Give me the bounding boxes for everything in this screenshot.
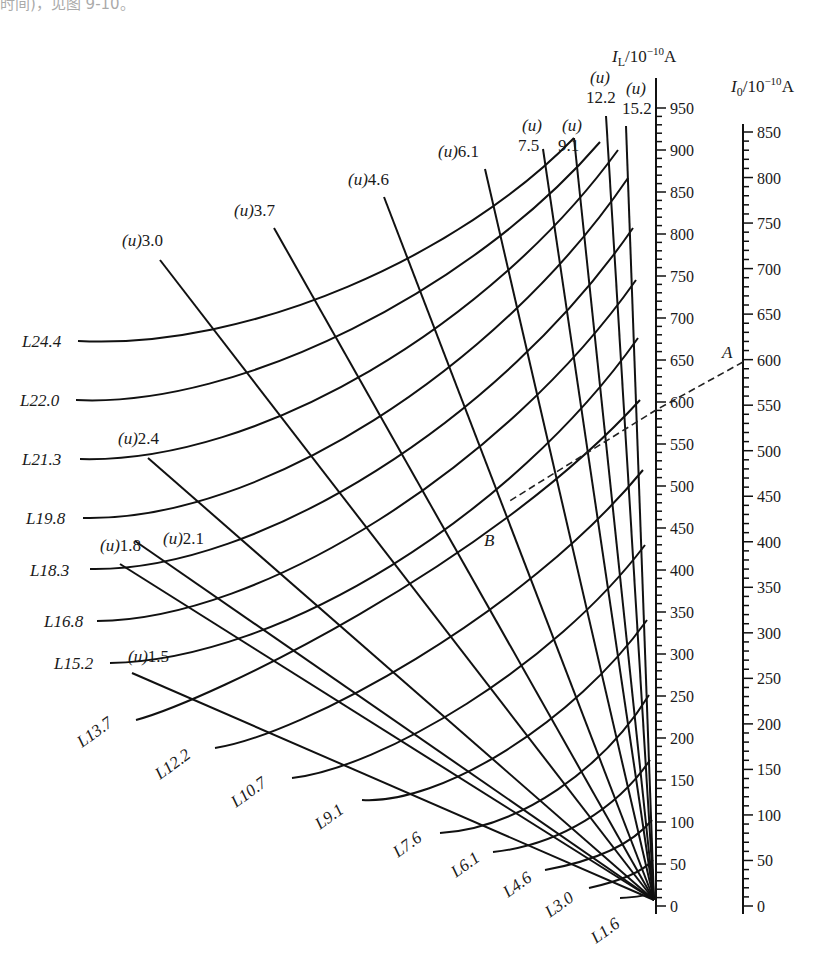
l-curve-label: L12.2: [150, 745, 194, 784]
tick-label: 150: [670, 772, 694, 789]
l-curve-label: L19.8: [25, 509, 66, 528]
tick-label: 900: [670, 142, 694, 159]
u-line-label: (u)7.5: [518, 116, 542, 155]
tick-label: 550: [670, 436, 694, 453]
u-line: [148, 458, 654, 900]
tick-label: 300: [757, 625, 781, 642]
l-curve-label: L21.3: [21, 450, 61, 469]
l-curve-label: L13.7: [72, 712, 117, 752]
tick-label: 350: [757, 579, 781, 596]
u-line-label: (u)1.5: [128, 647, 169, 666]
l-curve: [110, 338, 638, 663]
u-line: [132, 673, 654, 900]
tick-label: 600: [757, 352, 781, 369]
u-line-label: (u)3.0: [122, 231, 163, 250]
u-line: [274, 228, 654, 900]
l-curve: [83, 178, 628, 518]
point-a-label: A: [721, 343, 733, 362]
tick-label: 850: [670, 184, 694, 201]
l-curve-label: L24.4: [21, 332, 62, 351]
tick-label: 700: [670, 310, 694, 327]
il-axis: 0501001502002503003504004505005506006507…: [611, 45, 694, 915]
nomogram: (u)1.5(u)1.8(u)2.1(u)2.4(u)3.0(u)3.7(u)4…: [0, 0, 829, 964]
tick-label: 850: [757, 124, 781, 141]
tick-label: 800: [757, 170, 781, 187]
l-curve-label: L9.1: [310, 800, 347, 834]
tick-label: 550: [757, 397, 781, 414]
tick-label: 50: [670, 856, 686, 873]
u-line-label: (u)2.1: [163, 529, 204, 548]
tick-label: 300: [670, 646, 694, 663]
point-b-label: B: [484, 531, 495, 550]
u-line-label: (u)2.4: [118, 429, 160, 448]
u-line: [384, 197, 654, 900]
l-curve-label: L1.6: [586, 914, 623, 948]
l-curve: [440, 695, 649, 833]
tick-label: 200: [670, 730, 694, 747]
i0-axis: 0501001502002503003504004505005506006507…: [730, 75, 795, 915]
tick-label: 750: [757, 215, 781, 232]
l-curve-label: L6.1: [446, 848, 483, 882]
tick-label: 500: [670, 478, 694, 495]
l-curve-label: L22.0: [19, 391, 60, 410]
axis-title: I0/10−10A: [730, 75, 795, 99]
l-curve-label: L3.0: [540, 888, 577, 922]
u-line-label: (u)3.7: [234, 201, 276, 220]
l-curve-label: L16.8: [43, 612, 84, 631]
tick-label: 250: [670, 688, 694, 705]
u-line-label: (u)15.2: [622, 79, 652, 118]
l-curve: [90, 228, 633, 569]
u-line-label: (u)1.8: [100, 536, 141, 555]
tick-label: 750: [670, 268, 694, 285]
l-curve: [80, 150, 618, 459]
l-curve: [292, 545, 645, 778]
tick-label: 0: [757, 898, 765, 915]
l-curve-label: L4.6: [498, 868, 535, 902]
tick-label: 250: [757, 670, 781, 687]
u-line-label: (u)12.2: [586, 68, 616, 107]
tick-label: 450: [670, 520, 694, 537]
tick-label: 0: [670, 898, 678, 915]
tick-label: 100: [670, 814, 694, 831]
u-line-group: (u)1.5(u)1.8(u)2.1(u)2.4(u)3.0(u)3.7(u)4…: [100, 68, 654, 900]
tick-label: 450: [757, 488, 781, 505]
tick-label: 650: [757, 306, 781, 323]
u-line: [120, 564, 654, 900]
tick-label: 800: [670, 226, 694, 243]
tick-label: 400: [757, 534, 781, 551]
axis-title: IL/10−10A: [611, 45, 677, 69]
tick-label: 200: [757, 716, 781, 733]
l-curve-label: L7.6: [388, 828, 425, 862]
tick-label: 100: [757, 807, 781, 824]
l-curve-label: L10.7: [226, 772, 271, 812]
tick-label: 650: [670, 352, 694, 369]
u-line-label: (u)6.1: [438, 142, 479, 161]
l-curve: [136, 400, 640, 720]
tick-label: 950: [670, 100, 694, 117]
tick-label: 350: [670, 604, 694, 621]
l-curve-label: L18.3: [29, 561, 69, 580]
tick-label: 700: [757, 261, 781, 278]
tick-label: 150: [757, 761, 781, 778]
l-curve-label: L15.2: [53, 654, 94, 673]
tick-label: 50: [757, 852, 773, 869]
tick-label: 500: [757, 443, 781, 460]
u-line-label: (u)4.6: [348, 170, 389, 189]
l-curve: [76, 142, 600, 400]
tick-label: 400: [670, 562, 694, 579]
